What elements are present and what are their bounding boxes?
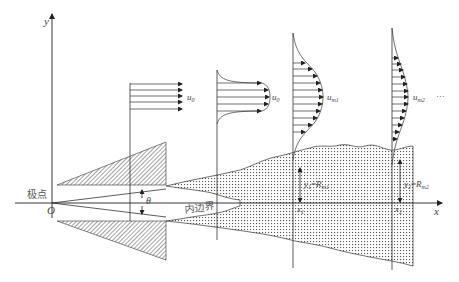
y-axis-label: y bbox=[43, 15, 49, 27]
radius-label-2: y2=Rm2 bbox=[403, 179, 429, 190]
pole-label: 极点 bbox=[27, 188, 47, 200]
ellipsis-label: ··· bbox=[436, 91, 445, 101]
um1-label: um1 bbox=[327, 92, 339, 103]
velocity-profile-uniform bbox=[130, 84, 182, 109]
velocity-profile-um1 bbox=[293, 33, 323, 160]
origin-label: O bbox=[47, 204, 55, 216]
x-axis-label: x bbox=[433, 205, 439, 217]
um2-label: um2 bbox=[413, 92, 425, 103]
nozzle-upper-wall bbox=[57, 142, 166, 185]
jet-diagram: y x O 极点 内边界 θ u0 u0 um1 um2 ··· x1 x2 y… bbox=[0, 0, 459, 282]
u0-label-1: u0 bbox=[187, 92, 195, 103]
u0-label-2: u0 bbox=[272, 92, 280, 103]
inner-boundary-label: 内边界 bbox=[184, 199, 215, 214]
theta-label: θ bbox=[146, 195, 151, 206]
velocity-profile-um2 bbox=[392, 28, 408, 165]
nozzle-lower-wall bbox=[57, 221, 166, 260]
velocity-profile-core bbox=[217, 70, 270, 124]
